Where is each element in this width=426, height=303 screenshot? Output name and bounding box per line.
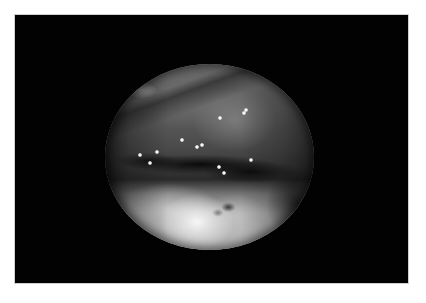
vignette (105, 64, 314, 250)
endoscope-view (105, 64, 314, 250)
